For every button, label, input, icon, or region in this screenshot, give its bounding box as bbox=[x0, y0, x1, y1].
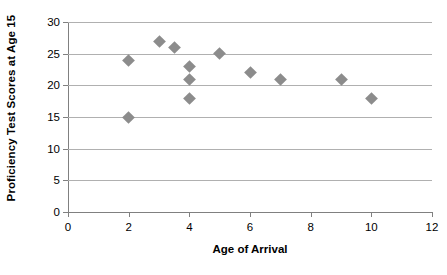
y-axis-tick-mark bbox=[63, 22, 68, 23]
y-axis-tick-label: 15 bbox=[34, 111, 60, 123]
x-axis-tick-mark bbox=[189, 212, 190, 217]
data-point bbox=[183, 60, 196, 73]
x-axis-tick-mark bbox=[250, 212, 251, 217]
data-point bbox=[183, 73, 196, 86]
y-axis-tick-label: 0 bbox=[34, 206, 60, 218]
plot-area bbox=[68, 22, 432, 212]
y-axis-tick-label: 10 bbox=[34, 143, 60, 155]
x-axis-tick-label: 12 bbox=[417, 221, 447, 233]
y-axis-tick-labels: 051015202530 bbox=[30, 0, 60, 275]
x-axis-tick-label: 8 bbox=[296, 221, 326, 233]
data-point bbox=[244, 66, 257, 79]
gridline-horizontal bbox=[68, 85, 432, 86]
data-point bbox=[153, 35, 166, 48]
x-axis-tick-mark bbox=[311, 212, 312, 217]
x-axis-tick-mark bbox=[129, 212, 130, 217]
y-axis-tick-mark bbox=[63, 85, 68, 86]
x-axis-tick-mark bbox=[371, 212, 372, 217]
data-point bbox=[335, 73, 348, 86]
x-axis-tick-mark bbox=[68, 212, 69, 217]
gridline-horizontal bbox=[68, 22, 432, 23]
y-axis-title: Proficiency Test Scores at Age 15 bbox=[0, 0, 22, 215]
y-axis-tick-mark bbox=[63, 54, 68, 55]
gridline-horizontal bbox=[68, 180, 432, 181]
x-axis-tick-label: 0 bbox=[53, 221, 83, 233]
x-axis-tick-label: 4 bbox=[174, 221, 204, 233]
y-axis-tick-mark bbox=[63, 117, 68, 118]
data-point bbox=[274, 73, 287, 86]
x-axis-tick-label: 6 bbox=[235, 221, 265, 233]
x-axis-tick-label: 2 bbox=[114, 221, 144, 233]
y-axis-tick-label: 20 bbox=[34, 79, 60, 91]
x-axis-tick-label: 10 bbox=[356, 221, 386, 233]
x-axis-title: Age of Arrival bbox=[68, 243, 432, 255]
y-axis-tick-label: 30 bbox=[34, 16, 60, 28]
data-point bbox=[168, 41, 181, 54]
y-axis-title-label: Proficiency Test Scores at Age 15 bbox=[5, 14, 17, 201]
gridline-horizontal bbox=[68, 149, 432, 150]
data-point bbox=[365, 92, 378, 105]
data-point bbox=[183, 92, 196, 105]
gridline-horizontal bbox=[68, 54, 432, 55]
y-axis-tick-mark bbox=[63, 180, 68, 181]
y-axis-tick-mark bbox=[63, 149, 68, 150]
data-point bbox=[213, 47, 226, 60]
y-axis-tick-label: 5 bbox=[34, 174, 60, 186]
data-point bbox=[122, 111, 135, 124]
data-point bbox=[122, 54, 135, 67]
scatter-chart-figure: Proficiency Test Scores at Age 15 051015… bbox=[0, 0, 447, 275]
y-axis-tick-label: 25 bbox=[34, 48, 60, 60]
x-axis-tick-mark bbox=[432, 212, 433, 217]
